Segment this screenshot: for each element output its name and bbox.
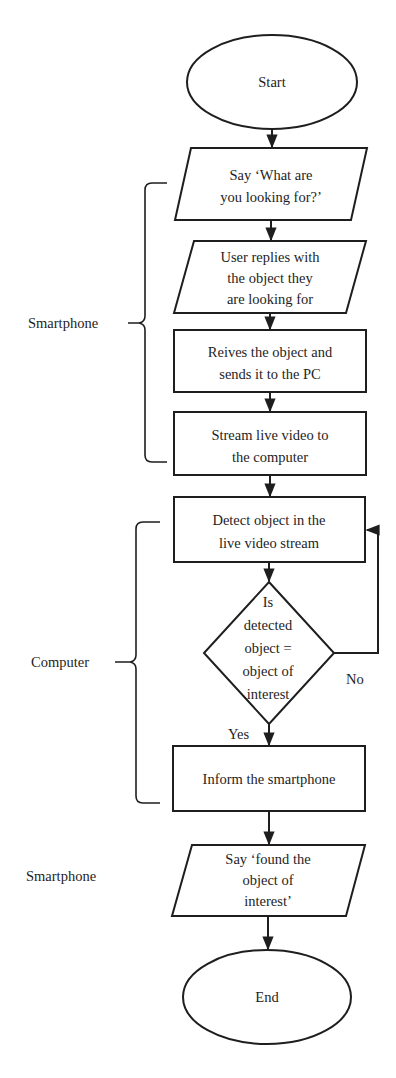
say-found-line-2: object of [242, 872, 293, 888]
receives-node: Reives the object and sends it to the PC [174, 330, 366, 392]
user-replies-line-3: are looking for [227, 291, 313, 307]
no-label: No [346, 671, 364, 687]
user-replies-node: User replies with the object they are lo… [174, 241, 366, 313]
computer-group-label: Computer [31, 654, 89, 670]
end-node: End [183, 950, 351, 1044]
inform-label: Inform the smartphone [203, 771, 336, 787]
smartphone-group-label: Smartphone [28, 315, 98, 331]
decision-line-2: detected [244, 617, 293, 633]
stream-line-2: the computer [232, 449, 308, 465]
say-found-line-1: Say ‘found the [225, 851, 310, 867]
receives-line-1: Reives the object and [208, 344, 333, 360]
decision-node: Is detected object = object of interest [204, 582, 334, 724]
decision-line-1: Is [263, 594, 274, 610]
say-what-line-1: Say ‘What are [230, 167, 313, 183]
user-replies-line-2: the object they [227, 270, 313, 286]
yes-label: Yes [228, 726, 249, 742]
inform-node: Inform the smartphone [173, 746, 365, 811]
flowchart-canvas: Start Say ‘What are you looking for?’ Us… [0, 0, 396, 1078]
detect-line-1: Detect object in the [212, 512, 325, 528]
detect-line-2: live video stream [219, 535, 320, 551]
start-node: Start [187, 35, 357, 129]
decision-line-3: object = [244, 640, 291, 656]
stream-line-1: Stream live video to [211, 427, 328, 443]
start-label: Start [258, 74, 285, 90]
say-found-node: Say ‘found the object of interest’ [172, 845, 365, 916]
say-what-node: Say ‘What are you looking for?’ [175, 148, 367, 220]
decision-line-4: object of [242, 663, 293, 679]
say-what-line-2: you looking for?’ [220, 189, 321, 205]
end-label: End [255, 989, 279, 1005]
user-replies-line-1: User replies with [220, 249, 320, 265]
computer-group-brace [115, 522, 160, 803]
smartphone-final-group-label: Smartphone [26, 868, 96, 884]
receives-line-2: sends it to the PC [219, 366, 321, 382]
say-found-line-3: interest’ [244, 893, 292, 909]
smartphone-group-brace [128, 183, 167, 462]
decision-line-5: interest [247, 686, 290, 702]
stream-node: Stream live video to the computer [174, 412, 366, 475]
detect-node: Detect object in the live video stream [174, 497, 365, 562]
